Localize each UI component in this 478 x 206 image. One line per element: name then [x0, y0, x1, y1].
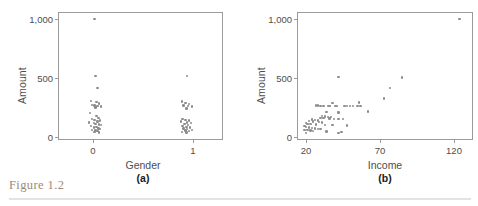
data-point — [94, 106, 96, 108]
panel-a-y-tick-1000: 1,000 — [18, 14, 53, 25]
panel-b-y-tick-500: 500 — [257, 73, 292, 84]
figure-caption-area: Figure 1.2 — [0, 178, 478, 206]
data-point — [180, 120, 182, 122]
panel-b-plot-frame — [297, 12, 473, 140]
panel-b-ytick-mark-500 — [294, 78, 297, 79]
data-point — [181, 131, 183, 133]
data-point — [331, 102, 333, 104]
panel-a-ytick-mark-0 — [55, 137, 58, 138]
panel-b-x-tick-70: 70 — [366, 145, 394, 156]
data-point — [93, 18, 95, 20]
panel-a-xtick-mark-1 — [193, 140, 194, 143]
data-point — [94, 75, 96, 77]
data-point — [182, 104, 184, 106]
data-point — [305, 132, 307, 134]
panel-b-x-tick-120: 120 — [440, 145, 468, 156]
panel-a-x-tick-0: 0 — [79, 145, 107, 156]
figure-plot-area: Amount 1,000 500 0 0 1 Gender (a) Amount… — [0, 0, 478, 178]
panel-a-x-tick-1: 1 — [179, 145, 207, 156]
panel-a-ytick-mark-1000 — [55, 19, 58, 20]
panel-a-y-tick-500: 500 — [18, 73, 53, 84]
data-point — [328, 117, 330, 119]
panel-a-xtick-mark-0 — [93, 140, 94, 143]
caption-divider — [9, 198, 471, 200]
panel-b-y-tick-1000: 1,000 — [257, 14, 292, 25]
data-point — [94, 123, 96, 125]
data-point — [100, 105, 102, 107]
panel-a-plot-frame — [58, 12, 223, 140]
data-point — [340, 131, 342, 133]
data-point — [321, 121, 323, 123]
panel-b-ytick-mark-0 — [294, 137, 297, 138]
data-point — [181, 100, 183, 102]
data-point — [331, 124, 333, 126]
panel-b-xtick-mark-70 — [380, 140, 381, 143]
data-point — [337, 118, 339, 120]
data-point — [401, 76, 403, 78]
panel-b-y-tick-0: 0 — [257, 132, 292, 143]
panel-b-xtick-mark-120 — [454, 140, 455, 143]
data-point — [185, 107, 187, 109]
scatter-panel-income: Amount 1,000 500 0 20 70 120 Income (b) — [239, 0, 478, 178]
data-point — [93, 131, 95, 133]
panel-b-x-tick-20: 20 — [292, 145, 320, 156]
data-point — [458, 18, 460, 20]
panel-b-x-axis-title: Income — [330, 159, 440, 171]
data-point — [191, 105, 193, 107]
data-point — [337, 111, 339, 113]
data-point — [314, 127, 316, 129]
data-point — [325, 130, 327, 132]
data-point — [88, 121, 90, 123]
panel-a-y-tick-0: 0 — [18, 132, 53, 143]
panel-a-ytick-mark-500 — [55, 78, 58, 79]
data-point — [191, 129, 193, 131]
panel-b-ytick-mark-1000 — [294, 19, 297, 20]
panel-b-xtick-mark-20 — [306, 140, 307, 143]
panel-a-x-axis-title: Gender — [88, 159, 198, 171]
figure-caption-label: Figure 1.2 — [9, 178, 64, 193]
data-point — [185, 131, 187, 133]
scatter-panel-gender: Amount 1,000 500 0 0 1 Gender (a) — [0, 0, 239, 178]
data-point — [367, 110, 369, 112]
